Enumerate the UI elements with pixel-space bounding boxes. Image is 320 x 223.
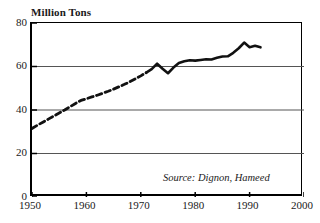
y-axis-tick-labels: 020406080	[0, 0, 27, 223]
y-tick-label-80: 80	[1, 17, 27, 28]
chart-plot-svg	[32, 23, 304, 197]
data-series-estimated	[32, 73, 146, 129]
y-tick-label-20: 20	[1, 147, 27, 158]
x-tick-label-1960: 1960	[64, 200, 104, 211]
y-tick-label-40: 40	[1, 104, 27, 115]
x-tick-label-1950: 1950	[10, 200, 50, 211]
data-series-measured	[146, 43, 260, 74]
y-tick-label-60: 60	[1, 60, 27, 71]
x-axis-tick-labels: 195019601970198019902000	[0, 200, 320, 220]
x-tick-label-1970: 1970	[119, 200, 159, 211]
chart-container: Million Tons 020406080 19501960197019801…	[0, 0, 320, 223]
x-tick-label-1980: 1980	[173, 200, 213, 211]
source-note: Source: Dignon, Hameed	[163, 172, 270, 184]
x-tick-label-2000: 2000	[282, 200, 320, 211]
plot-area	[30, 22, 302, 196]
x-tick-label-1990: 1990	[228, 200, 268, 211]
y-axis-title: Million Tons	[31, 6, 91, 19]
